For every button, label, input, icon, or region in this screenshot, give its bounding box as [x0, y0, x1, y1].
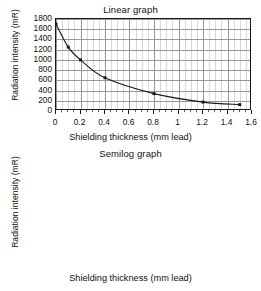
linear-x-tick: 0.8: [147, 117, 159, 127]
linear-y-tick: 1800: [34, 13, 52, 23]
linear-series-svg: [56, 19, 251, 110]
linear-y-axis-label: Radiation intensity (mR): [10, 0, 20, 111]
linear-x-tick: 0.4: [98, 117, 110, 127]
linear-y-tick: 0: [47, 105, 52, 115]
linear-x-tick-marks: [55, 110, 253, 116]
linear-x-tick: 1: [175, 117, 180, 127]
linear-y-tick: 1400: [34, 33, 52, 43]
linear-plot-area: 020040060080010001200140016001800 00.20.…: [55, 18, 251, 110]
semilog-y-axis-label: Radiation intensity (mR): [10, 146, 20, 258]
linear-y-tick: 1200: [34, 44, 52, 54]
linear-x-tick: 1.2: [196, 117, 208, 127]
linear-y-tick: 800: [38, 64, 52, 74]
semilog-graph-figure: Semilog graph Radiation intensity (mR) 1…: [0, 145, 261, 291]
linear-y-tick: 400: [38, 85, 52, 95]
linear-x-tick: 0: [53, 117, 58, 127]
linear-graph-figure: Linear graph Radiation intensity (mR) 02…: [0, 0, 261, 145]
linear-y-tick: 600: [38, 74, 52, 84]
linear-plot-canvas: [55, 18, 251, 110]
semilog-x-axis-label: Shielding thickness (mm lead): [0, 273, 261, 283]
semilog-chart-title: Semilog graph: [0, 148, 261, 159]
linear-y-tick: 1000: [34, 54, 52, 64]
linear-y-tick: 1600: [34, 23, 52, 33]
linear-x-tick: 0.6: [123, 117, 135, 127]
linear-y-tick: 200: [38, 95, 52, 105]
linear-x-tick: 1.4: [221, 117, 233, 127]
linear-x-axis-label: Shielding thickness (mm lead): [0, 132, 261, 142]
linear-x-tick: 1.6: [245, 117, 257, 127]
linear-x-tick: 0.2: [74, 117, 86, 127]
